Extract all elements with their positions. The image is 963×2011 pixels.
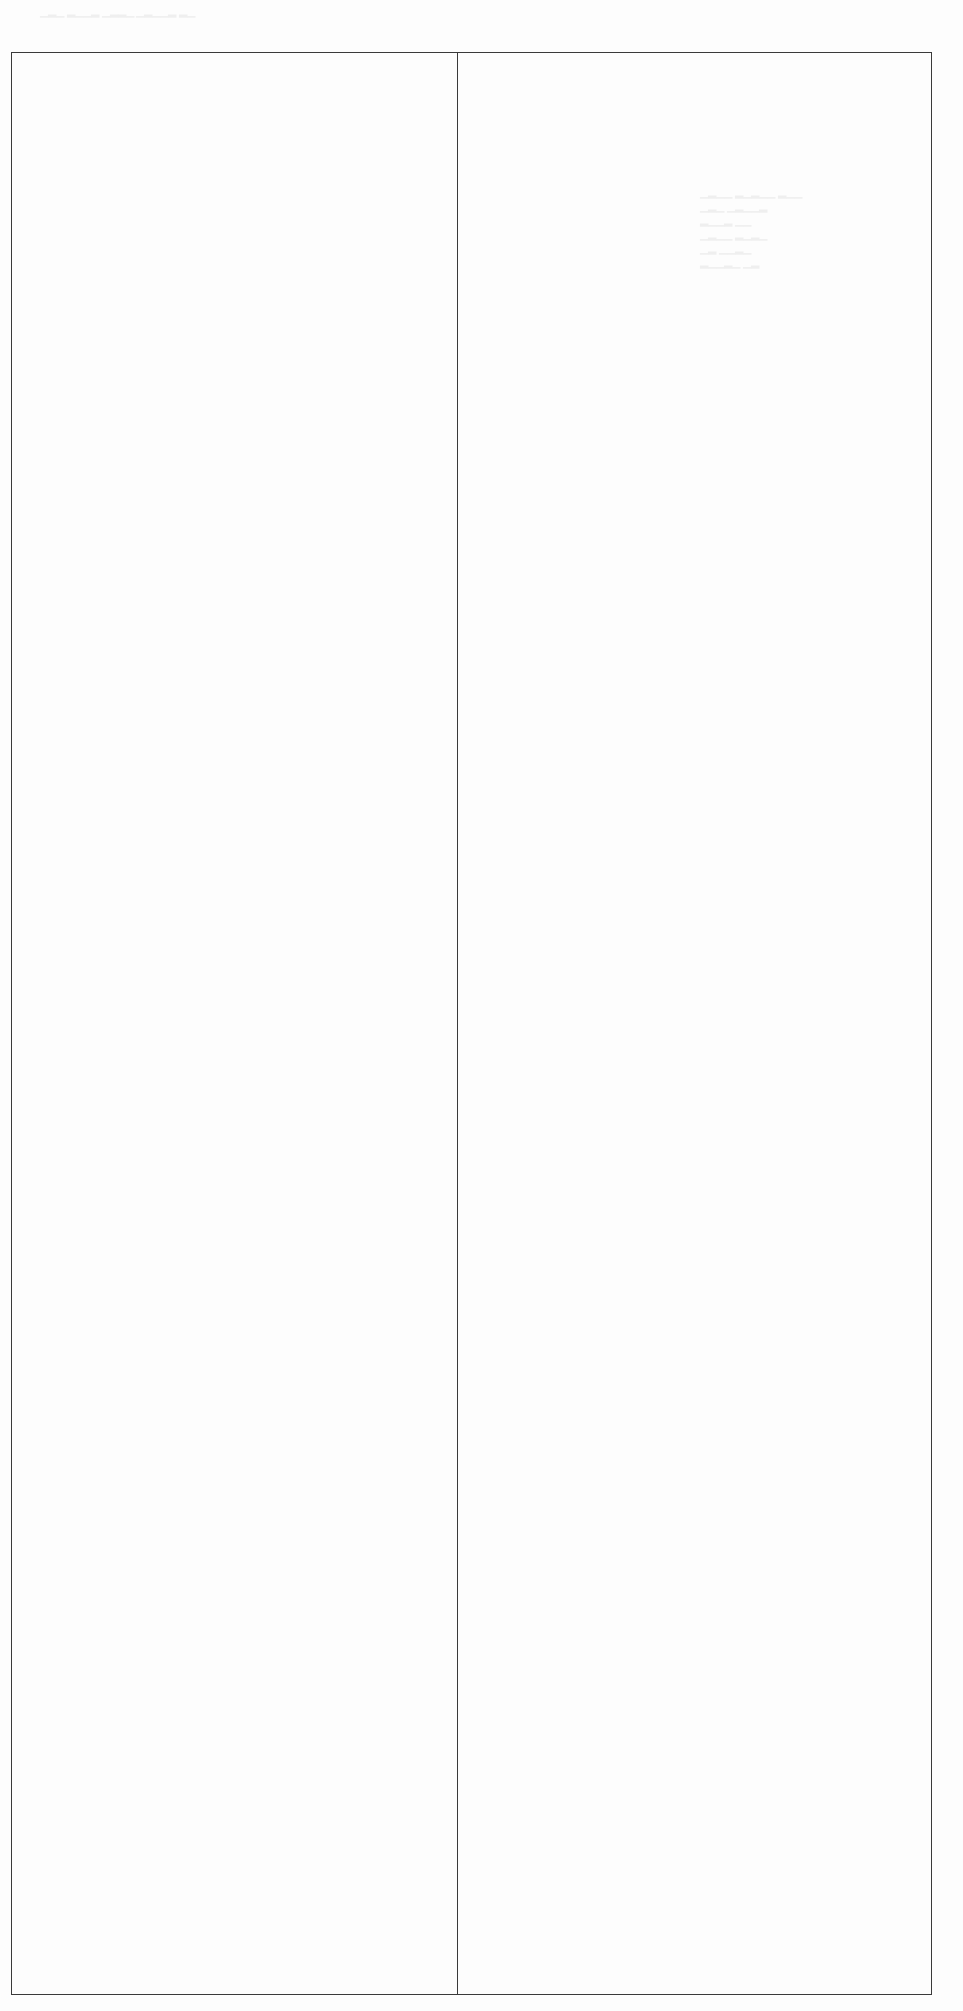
bleed-through-top: ▁▂▁ ▂▁▁▂ ▁▂▂▁ ▁▂▁▁▂ ▂▁: [40, 4, 195, 18]
empty-two-column-table: [11, 52, 932, 1995]
scanned-page: ▁▂▁ ▂▁▁▂ ▁▂▂▁ ▁▂▁▁▂ ▂▁ ▁▂▁▁ ▂▁▂▁▁ ▂▁▁ ▁▂…: [0, 0, 963, 2011]
table-cell-right: [458, 53, 931, 1994]
left-cell-text: [12, 53, 457, 70]
table-cell-left: [12, 53, 458, 1994]
right-cell-text: [458, 53, 931, 70]
